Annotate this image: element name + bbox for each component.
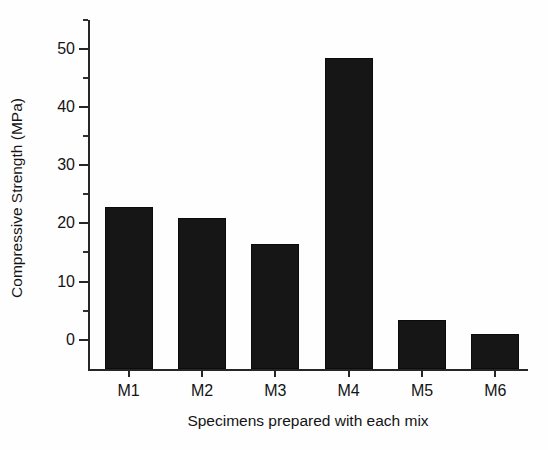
x-tick-mark [494, 369, 496, 377]
y-tick-label: 20 [57, 214, 75, 232]
bar [178, 218, 226, 369]
plot-area: 01020304050 M1M2M3M4M5M6 [88, 20, 528, 371]
x-axis-line [88, 369, 528, 371]
y-tick-mark [79, 48, 88, 50]
x-axis-title: Specimens prepared with each mix [88, 412, 528, 430]
x-tick-mark [201, 369, 203, 377]
y-axis-line [88, 20, 90, 371]
y-tick-mark [79, 339, 88, 341]
x-tick-label: M2 [191, 382, 213, 400]
y-minor-tick-mark [83, 77, 88, 79]
bar [251, 244, 299, 369]
x-tick-mark [348, 369, 350, 377]
y-minor-tick-mark [83, 135, 88, 137]
x-tick-label: M5 [411, 382, 433, 400]
bar [398, 320, 446, 369]
y-minor-tick-mark [83, 251, 88, 253]
y-minor-tick-mark [83, 193, 88, 195]
y-axis-title: Compressive Strength (MPa) [4, 8, 30, 388]
x-tick-label: M4 [338, 382, 360, 400]
y-minor-tick-mark [83, 310, 88, 312]
y-tick-label: 30 [57, 156, 75, 174]
x-tick-label: M3 [264, 382, 286, 400]
y-minor-tick-mark [83, 19, 88, 21]
y-tick-mark [79, 281, 88, 283]
x-tick-label: M6 [484, 382, 506, 400]
x-tick-label: M1 [118, 382, 140, 400]
bar [325, 58, 373, 369]
y-tick-label: 10 [57, 273, 75, 291]
y-tick-label: 40 [57, 98, 75, 116]
bar [471, 334, 519, 369]
x-tick-mark [128, 369, 130, 377]
y-tick-label: 0 [66, 331, 75, 349]
y-tick-mark [79, 106, 88, 108]
bar [105, 207, 153, 369]
y-tick-mark [79, 164, 88, 166]
y-tick-mark [79, 222, 88, 224]
y-tick-label: 50 [57, 40, 75, 58]
x-tick-mark [421, 369, 423, 377]
bar-chart-figure: Compressive Strength (MPa) 01020304050 M… [0, 0, 548, 450]
x-tick-mark [274, 369, 276, 377]
